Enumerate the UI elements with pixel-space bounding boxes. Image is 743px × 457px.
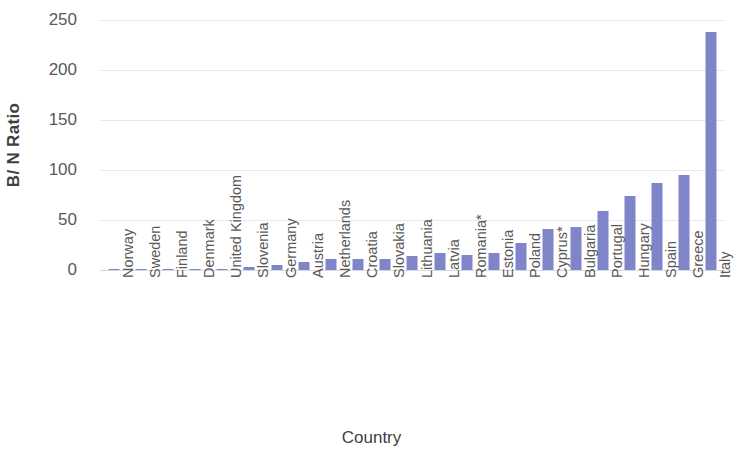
bar[interactable]	[461, 255, 472, 270]
bar[interactable]	[516, 243, 527, 270]
y-tick-label: 250	[17, 11, 77, 28]
x-tick-label: Spain	[663, 241, 679, 278]
bar[interactable]	[380, 259, 391, 270]
x-tick-label: Bulgaria	[582, 225, 598, 278]
x-tick-label: Romania*	[473, 214, 489, 278]
gridline	[100, 270, 725, 271]
bar[interactable]	[298, 262, 309, 270]
y-axis-title: B/ N Ratio	[4, 60, 24, 230]
bar[interactable]	[652, 183, 663, 270]
x-tick-label: Sweden	[147, 226, 163, 278]
x-tick-label: Austria	[310, 233, 326, 278]
bar[interactable]	[489, 253, 500, 270]
bar[interactable]	[162, 269, 173, 271]
bar[interactable]	[543, 229, 554, 270]
x-axis-ticks: NorwaySwedenFinlandDenmarkUnited Kingdom…	[100, 278, 725, 418]
bar[interactable]	[570, 227, 581, 270]
x-tick-label: Latvia	[446, 239, 462, 278]
y-tick-label: 150	[17, 111, 77, 128]
x-axis-title: Country	[0, 428, 743, 448]
bar[interactable]	[597, 211, 608, 270]
x-tick-label: Germany	[283, 218, 299, 278]
y-tick-label: 100	[17, 161, 77, 178]
x-tick-label: Portugal	[609, 224, 625, 278]
bar-chart: B/ N Ratio 050100150200250 NorwaySwedenF…	[0, 0, 743, 457]
bar[interactable]	[244, 267, 255, 270]
y-tick-label: 200	[17, 61, 77, 78]
x-tick-label: Norway	[120, 229, 136, 278]
x-tick-label: United Kingdom	[228, 175, 244, 278]
bar-series	[100, 20, 725, 270]
bar[interactable]	[706, 32, 717, 270]
bar[interactable]	[190, 269, 201, 271]
bar[interactable]	[135, 269, 146, 271]
bar[interactable]	[325, 259, 336, 270]
bar[interactable]	[353, 259, 364, 270]
bar[interactable]	[434, 253, 445, 270]
x-tick-label: Greece	[690, 230, 706, 278]
bar[interactable]	[217, 269, 228, 271]
x-tick-label: Poland	[527, 233, 543, 278]
bar[interactable]	[624, 196, 635, 270]
x-tick-label: Cyprus*	[554, 226, 570, 278]
x-tick-label: Netherlands	[337, 200, 353, 278]
x-tick-label: Croatia	[364, 231, 380, 278]
x-tick-label: Hungary	[636, 223, 652, 278]
x-tick-label: Slovakia	[391, 223, 407, 278]
bar[interactable]	[407, 256, 418, 270]
bar[interactable]	[108, 269, 119, 271]
x-tick-label: Italy	[717, 251, 733, 278]
x-tick-label: Slovenia	[255, 222, 271, 278]
plot-area: 050100150200250	[100, 20, 725, 270]
bar[interactable]	[271, 265, 282, 270]
x-tick-label: Denmark	[201, 219, 217, 278]
x-tick-label: Estonia	[500, 230, 516, 278]
x-tick-label: Finland	[174, 230, 190, 278]
x-tick-label: Lithuania	[419, 219, 435, 278]
bar[interactable]	[679, 175, 690, 270]
y-tick-label: 50	[17, 211, 77, 228]
y-tick-label: 0	[17, 261, 77, 278]
